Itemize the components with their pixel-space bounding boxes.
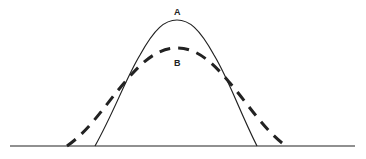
- curve-a-solid: [95, 20, 257, 146]
- curve-a-label: A: [174, 7, 181, 17]
- curves-diagram: A B: [0, 0, 366, 159]
- curve-b-label: B: [174, 58, 181, 68]
